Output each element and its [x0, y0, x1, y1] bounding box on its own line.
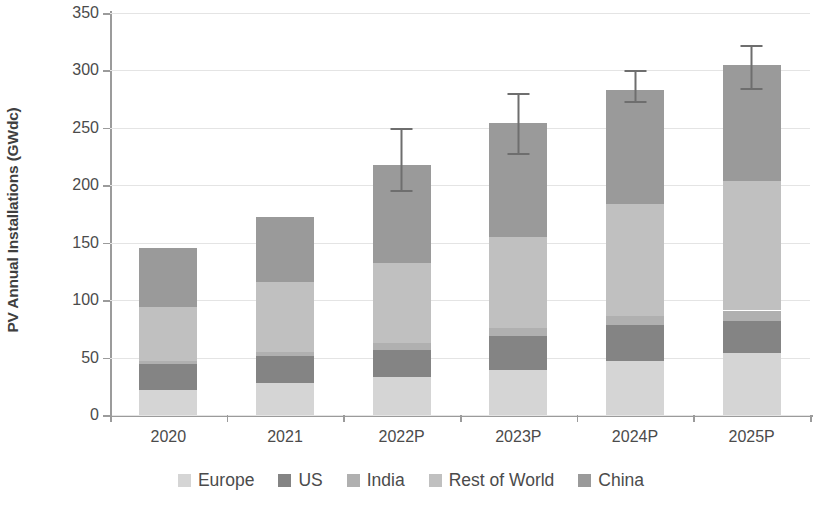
error-bar-stem	[751, 45, 753, 90]
x-tick-label-2020: 2020	[151, 428, 187, 446]
y-tick-mark	[103, 243, 110, 245]
legend-label: US	[298, 470, 322, 491]
bar-segment-rest-of-world[interactable]	[139, 307, 197, 361]
y-tick-mark	[103, 300, 110, 302]
bar-segment-us[interactable]	[489, 336, 547, 370]
error-bar-cap-top	[741, 45, 763, 47]
error-bar-stem	[401, 128, 403, 192]
bar-2023P[interactable]	[489, 13, 547, 415]
bar-2024P[interactable]	[606, 13, 664, 415]
y-tick-mark	[103, 128, 110, 130]
bar-segment-china[interactable]	[139, 248, 197, 307]
error-bar-cap-top	[507, 93, 529, 95]
y-tick-label: 250	[72, 119, 99, 137]
x-tick-mark	[810, 415, 812, 422]
y-axis-tick: 150	[110, 243, 111, 244]
bar-segment-europe[interactable]	[139, 390, 197, 415]
bar-segment-europe[interactable]	[373, 377, 431, 415]
y-axis-tick: 100	[110, 300, 111, 301]
bar-segment-rest-of-world[interactable]	[606, 204, 664, 317]
bar-segment-india[interactable]	[723, 311, 781, 321]
x-tick-mark	[693, 415, 695, 422]
x-tick-mark	[577, 415, 579, 422]
error-bar-stem	[634, 70, 636, 102]
legend-label: Europe	[198, 470, 254, 491]
bar-2020[interactable]	[139, 13, 197, 415]
bar-segment-india[interactable]	[256, 352, 314, 357]
bar-segment-us[interactable]	[606, 325, 664, 361]
error-bar-cap-bottom	[624, 101, 646, 103]
pv-annual-installations-chart: PV Annual Installations (GWdc) 050100150…	[0, 0, 822, 506]
y-tick-mark	[103, 13, 110, 15]
bar-2022P[interactable]	[373, 13, 431, 415]
gridline	[110, 243, 810, 244]
x-tick-label-2025P: 2025P	[729, 428, 775, 446]
legend-item-india[interactable]: India	[347, 470, 405, 491]
bar-segment-rest-of-world[interactable]	[256, 282, 314, 352]
legend-label: India	[367, 470, 405, 491]
y-axis-tick: 250	[110, 128, 111, 129]
legend-label: Rest of World	[449, 470, 555, 491]
bar-segment-us[interactable]	[373, 350, 431, 378]
y-tick-label: 100	[72, 291, 99, 309]
y-tick-label: 200	[72, 176, 99, 194]
chart-legend: EuropeUSIndiaRest of WorldChina	[0, 470, 822, 491]
legend-swatch-icon	[429, 474, 442, 487]
x-tick-label-2024P: 2024P	[612, 428, 658, 446]
legend-item-china[interactable]: China	[578, 470, 644, 491]
y-axis-tick: 300	[110, 70, 111, 71]
x-tick-mark	[110, 415, 112, 422]
y-tick-label: 350	[72, 4, 99, 22]
bar-segment-europe[interactable]	[723, 353, 781, 415]
bar-segment-india[interactable]	[373, 343, 431, 350]
error-bar	[751, 45, 752, 90]
x-tick-mark	[343, 415, 345, 422]
x-tick-mark	[227, 415, 229, 422]
x-tick-mark	[460, 415, 462, 422]
x-tick-label-2022P: 2022P	[379, 428, 425, 446]
y-axis-title: PV Annual Installations (GWdc)	[0, 0, 26, 440]
x-tick-label-2023P: 2023P	[495, 428, 541, 446]
bar-2025P[interactable]	[723, 13, 781, 415]
bar-segment-us[interactable]	[256, 356, 314, 382]
bar-segment-us[interactable]	[139, 364, 197, 389]
gridline	[110, 300, 810, 301]
y-tick-label: 50	[81, 349, 99, 367]
bar-segment-india[interactable]	[489, 328, 547, 336]
legend-swatch-icon	[178, 474, 191, 487]
gridline	[110, 358, 810, 359]
bar-2021[interactable]	[256, 13, 314, 415]
bar-segment-rest-of-world[interactable]	[723, 181, 781, 311]
y-axis-tick: 50	[110, 358, 111, 359]
y-tick-mark	[103, 358, 110, 360]
gridline	[110, 70, 810, 71]
error-bar	[401, 128, 402, 192]
error-bar-cap-top	[624, 70, 646, 72]
bar-segment-india[interactable]	[139, 361, 197, 364]
bar-segment-europe[interactable]	[256, 383, 314, 415]
bar-segment-india[interactable]	[606, 316, 664, 325]
legend-swatch-icon	[578, 474, 591, 487]
plot-area: 050100150200250300350	[110, 13, 810, 415]
gridline	[110, 185, 810, 186]
gridline	[110, 128, 810, 129]
legend-item-us[interactable]: US	[278, 470, 322, 491]
error-bar	[518, 93, 519, 155]
legend-swatch-icon	[347, 474, 360, 487]
legend-item-europe[interactable]: Europe	[178, 470, 254, 491]
error-bar-cap-bottom	[507, 153, 529, 155]
y-axis-tick: 350	[110, 13, 111, 14]
bar-segment-china[interactable]	[606, 90, 664, 204]
gridline	[110, 13, 810, 14]
bar-segment-europe[interactable]	[489, 370, 547, 415]
y-tick-mark	[103, 185, 110, 187]
bar-segment-us[interactable]	[723, 321, 781, 353]
bar-segment-rest-of-world[interactable]	[489, 237, 547, 328]
x-tick-label-2021: 2021	[267, 428, 303, 446]
bar-segment-china[interactable]	[256, 217, 314, 281]
bar-segment-europe[interactable]	[606, 361, 664, 415]
bar-segment-rest-of-world[interactable]	[373, 263, 431, 342]
y-tick-mark	[103, 70, 110, 72]
legend-label: China	[598, 470, 644, 491]
legend-item-rest-of-world[interactable]: Rest of World	[429, 470, 555, 491]
